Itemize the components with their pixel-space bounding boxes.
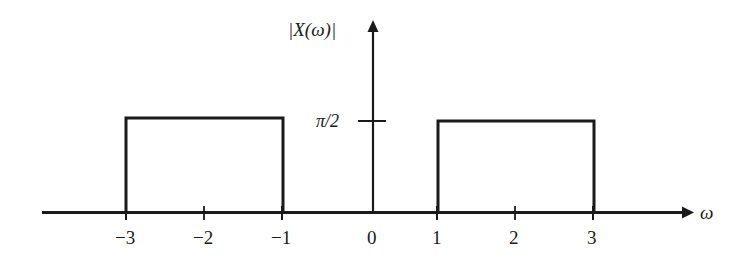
- pulse-negative: [126, 118, 283, 213]
- x-tick-label-neg3: −3: [115, 228, 135, 247]
- pulse-positive: [438, 121, 594, 213]
- y-axis-label: |X(ω)|: [288, 20, 336, 39]
- x-tick-label-neg2: −2: [193, 228, 213, 247]
- x-axis-label: ω: [700, 203, 713, 222]
- x-tick-label-2: 2: [509, 228, 519, 247]
- magnitude-axis-arrowhead: [368, 20, 379, 32]
- figure-container: |X(ω)| π/2 −3 −2 −1 0 1 2 3 ω: [0, 0, 739, 272]
- magnitude-axis: [368, 20, 379, 213]
- x-tick-label-3: 3: [587, 228, 597, 247]
- x-tick-label-1: 1: [432, 228, 442, 247]
- omega-axis-arrowhead: [682, 207, 694, 219]
- x-tick-label-0: 0: [367, 228, 377, 247]
- y-tick-label-pi-over-2: π/2: [316, 112, 339, 130]
- pulse-positive-outline: [438, 121, 594, 213]
- pulse-negative-outline: [126, 118, 283, 213]
- x-tick-label-neg1: −1: [271, 228, 291, 247]
- omega-axis: [42, 207, 694, 219]
